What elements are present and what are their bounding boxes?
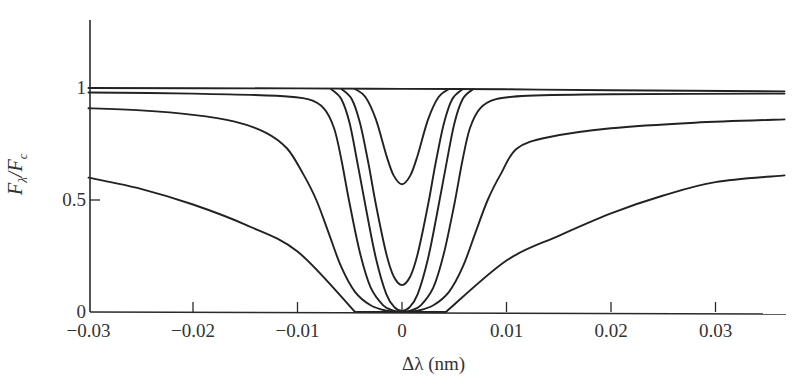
x-tick-label: −0.01 xyxy=(276,320,320,341)
y-label-denominator: /F xyxy=(4,159,26,177)
x-tick-label: −0.03 xyxy=(67,320,111,341)
curve-line-damping-wings xyxy=(89,175,785,312)
axes-group xyxy=(90,20,786,314)
curve-line-saturated-narrow xyxy=(331,89,473,311)
x-ticks: −0.03−0.02−0.0100.010.020.03 xyxy=(67,302,733,341)
y-label-sub-lambda: λ xyxy=(15,177,30,183)
y-tick-label: 1 xyxy=(77,77,87,98)
curve-continuum xyxy=(89,88,785,91)
x-tick-label: 0.02 xyxy=(594,320,627,341)
y-ticks: 00.51 xyxy=(62,77,100,322)
y-label-main: F xyxy=(4,183,26,195)
y-tick-label: 0.5 xyxy=(62,189,86,210)
curves-group xyxy=(89,88,785,312)
x-tick-label: −0.02 xyxy=(171,320,215,341)
x-tick-label: 0 xyxy=(397,320,407,341)
y-label-sub-c: c xyxy=(15,154,30,160)
x-axis xyxy=(90,312,786,314)
y-tick-label: 0 xyxy=(77,301,87,322)
x-tick-label: 0.03 xyxy=(699,320,732,341)
x-axis-label: Δλ (nm) xyxy=(402,353,465,375)
line-profile-chart: −0.03−0.02−0.0100.010.020.03 00.51 Δλ (n… xyxy=(0,0,812,384)
x-tick-label: 0.01 xyxy=(490,320,523,341)
curve-line-depth-0.88 xyxy=(341,89,462,285)
curve-line-saturated-wing-0.98 xyxy=(89,93,785,313)
y-axis-label: Fλ/Fc xyxy=(4,154,31,195)
